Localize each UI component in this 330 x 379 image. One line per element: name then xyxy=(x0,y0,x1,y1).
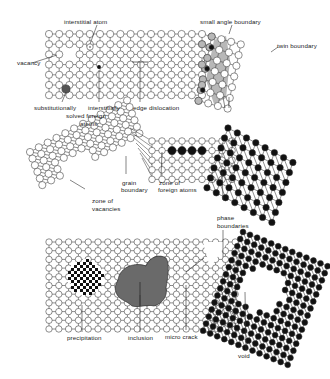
atom xyxy=(60,154,67,161)
atom xyxy=(137,30,144,37)
atom xyxy=(85,300,91,306)
atom xyxy=(163,317,169,323)
atom xyxy=(134,326,140,332)
atom xyxy=(96,30,103,37)
atom xyxy=(95,326,101,332)
atom xyxy=(105,291,111,297)
atom xyxy=(111,119,118,126)
atom xyxy=(229,175,235,181)
foreign-atom xyxy=(168,146,176,154)
atom xyxy=(221,70,228,77)
atom xyxy=(183,239,189,245)
atom xyxy=(46,308,52,314)
atom xyxy=(178,92,185,99)
label-phase-boundaries: boundaries xyxy=(217,222,249,229)
atom xyxy=(65,300,71,306)
atom xyxy=(220,170,226,176)
atom xyxy=(95,256,101,262)
atom xyxy=(207,175,213,181)
atom xyxy=(236,155,242,161)
atom xyxy=(266,194,272,200)
atom xyxy=(124,97,131,104)
atom xyxy=(233,267,239,273)
atom xyxy=(163,326,169,332)
atom xyxy=(268,159,274,165)
atom xyxy=(86,30,93,37)
atom xyxy=(209,138,216,145)
atom xyxy=(95,300,101,306)
atom xyxy=(96,51,103,58)
atom xyxy=(56,282,62,288)
atom xyxy=(237,318,243,324)
atom xyxy=(107,137,114,144)
atom xyxy=(253,140,259,146)
atom xyxy=(247,314,253,320)
atom xyxy=(158,71,165,78)
atom xyxy=(128,110,135,117)
atom xyxy=(222,295,228,301)
atom xyxy=(117,51,124,58)
atom xyxy=(178,30,185,37)
label-zone-of-vacancies: zone of xyxy=(92,197,113,204)
atom xyxy=(56,92,63,99)
atom xyxy=(159,167,166,174)
atom xyxy=(264,169,270,175)
atom xyxy=(54,166,61,173)
atom xyxy=(56,239,62,245)
atom xyxy=(56,308,62,314)
atom xyxy=(303,296,309,302)
atom xyxy=(163,300,169,306)
atom xyxy=(105,265,111,271)
atom xyxy=(134,256,140,262)
atom xyxy=(296,293,302,299)
atom xyxy=(56,41,63,48)
atom xyxy=(107,51,114,58)
atom xyxy=(149,157,156,164)
atom xyxy=(56,248,62,254)
substitutional-atom xyxy=(62,85,70,93)
atom xyxy=(250,348,256,354)
atom xyxy=(124,317,130,323)
boundary-atom xyxy=(204,54,211,61)
boundary-atom xyxy=(208,33,215,40)
atom xyxy=(147,61,154,68)
label-small-angle-boundary: small angle boundary xyxy=(200,18,261,25)
atom xyxy=(250,266,256,272)
atom xyxy=(65,256,71,262)
atom xyxy=(107,81,114,88)
atom xyxy=(173,326,179,332)
atom xyxy=(245,338,251,344)
atom xyxy=(107,71,114,78)
atom xyxy=(66,41,73,48)
atom xyxy=(82,127,89,134)
atom xyxy=(254,317,260,323)
atom xyxy=(271,356,277,362)
atom xyxy=(117,30,124,37)
atom xyxy=(214,333,220,339)
atom xyxy=(278,318,284,324)
atom xyxy=(149,167,156,174)
atom xyxy=(158,41,165,48)
atom xyxy=(242,246,248,252)
atom xyxy=(178,41,185,48)
atom xyxy=(117,71,124,78)
atom xyxy=(163,308,169,314)
atom xyxy=(224,329,230,335)
atom xyxy=(260,344,266,350)
label-interstitially: interstitially xyxy=(88,104,120,111)
atom xyxy=(212,300,218,306)
atom xyxy=(154,239,160,245)
atom xyxy=(232,250,238,256)
atom xyxy=(244,239,250,245)
atom xyxy=(268,241,274,247)
atom xyxy=(154,248,160,254)
atom xyxy=(101,149,108,156)
atom xyxy=(203,300,209,306)
atom xyxy=(291,266,297,272)
atom xyxy=(76,71,83,78)
atom xyxy=(287,256,293,262)
atom xyxy=(249,150,255,156)
atom xyxy=(293,341,299,347)
atom xyxy=(31,162,38,169)
atom xyxy=(105,326,111,332)
